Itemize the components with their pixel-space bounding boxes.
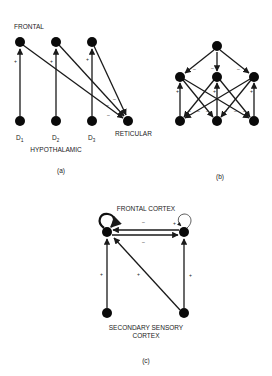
bottom-node-1: [175, 116, 185, 126]
plus-sign: +: [50, 58, 53, 64]
sensory-cortex-node-1: [102, 308, 112, 318]
frontal-label: FRONTAL: [14, 23, 44, 30]
panel-c: FRONTAL CORTEX + + – – + + + SECONDARY S…: [100, 205, 192, 365]
frontal-cortex-node-1: [102, 227, 112, 237]
panel-b: – – – + + + – – – – – – (b): [175, 41, 259, 181]
plus-sign: +: [173, 220, 176, 226]
sensory-cortex-node-2: [179, 308, 189, 318]
minus-sign: –: [142, 219, 145, 225]
bottom-node-3: [249, 116, 259, 126]
plus-sign: +: [250, 88, 253, 94]
middle-node-1: [175, 72, 185, 82]
minus-sign: –: [188, 108, 191, 114]
top-node: [212, 41, 222, 51]
minus-sign: –: [211, 65, 214, 71]
minus-sign: –: [106, 102, 109, 108]
panel-a-caption: (a): [57, 167, 65, 175]
panel-c-caption: (c): [142, 357, 150, 365]
edge-sensory2-frontal1: [114, 238, 180, 310]
plus-sign: +: [213, 88, 216, 94]
minus-sign: –: [197, 108, 200, 114]
plus-sign: +: [86, 56, 89, 62]
plus-sign: +: [137, 271, 140, 277]
frontal-node-1: [15, 37, 25, 47]
frontal-node-2: [51, 37, 61, 47]
frontal-cortex-node-2: [179, 227, 189, 237]
hypothalamic-node-d3: [87, 116, 97, 126]
neural-network-diagrams: FRONTAL + + + – – – D1 D2 D3 RETICULAR H…: [0, 0, 272, 376]
d1-label: D1: [16, 134, 24, 143]
edge-frontal3-reticular: [94, 46, 126, 115]
frontal-node-3: [87, 37, 97, 47]
self-loop-left: [100, 214, 114, 228]
middle-node-3: [249, 72, 259, 82]
cortex-label: CORTEX: [133, 332, 161, 339]
minus-sign: –: [113, 96, 116, 102]
minus-sign: –: [193, 66, 196, 72]
secondary-sensory-label: SECONDARY SENSORY: [109, 324, 184, 331]
hypothalamic-node-d2: [51, 116, 61, 126]
minus-sign: –: [234, 108, 237, 114]
edge-top-mid3: [220, 50, 249, 73]
panel-a: FRONTAL + + + – – – D1 D2 D3 RETICULAR H…: [14, 23, 152, 175]
bottom-node-2: [212, 116, 222, 126]
minus-sign: –: [243, 108, 246, 114]
minus-sign: –: [107, 112, 110, 118]
self-loop-right: [178, 214, 191, 228]
middle-node-2: [212, 72, 222, 82]
frontal-cortex-label: FRONTAL CORTEX: [117, 205, 176, 212]
edge-top-mid1: [185, 50, 214, 73]
d3-label: D3: [88, 134, 96, 143]
minus-sign: –: [142, 239, 145, 245]
minus-sign: –: [237, 66, 240, 72]
plus-sign: +: [117, 220, 120, 226]
plus-sign: +: [100, 271, 103, 277]
minus-sign: –: [206, 108, 209, 114]
plus-sign: +: [189, 272, 192, 278]
panel-b-caption: (b): [216, 173, 224, 181]
hypothalamic-label: HYPOTHALAMIC: [30, 146, 82, 153]
minus-sign: –: [224, 108, 227, 114]
plus-sign: +: [176, 88, 179, 94]
hypothalamic-node-d1: [15, 116, 25, 126]
plus-sign: +: [14, 58, 17, 64]
d2-label: D2: [52, 134, 60, 143]
reticular-node: [123, 116, 133, 126]
reticular-label: RETICULAR: [115, 130, 152, 137]
